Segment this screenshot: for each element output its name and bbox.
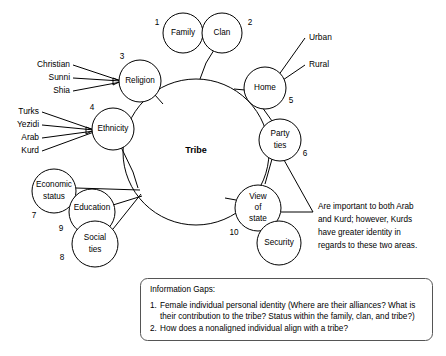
link-religion-hub bbox=[155, 95, 163, 104]
node-label-economic-status-line1: Economic bbox=[36, 180, 72, 189]
node-number-social-ties: 8 bbox=[60, 253, 65, 262]
leaf-label-rural: Rural bbox=[309, 59, 329, 69]
node-number-clan: 2 bbox=[248, 18, 253, 27]
home-branch-labels: Urban Rural bbox=[309, 32, 332, 69]
node-number-religion: 3 bbox=[120, 52, 125, 61]
node-home[interactable]: Home 5 bbox=[244, 67, 294, 109]
node-number-view-of-state: 10 bbox=[229, 228, 239, 237]
leaf-label-christian: Christian bbox=[37, 59, 70, 69]
diagram-canvas: Tribe Family 1 Clan 2 Religion 3 Ethnici… bbox=[0, 0, 446, 356]
node-label-family: Family bbox=[171, 28, 196, 37]
node-party-ties[interactable]: Party ties 6 bbox=[259, 119, 308, 161]
node-social-ties[interactable]: Social ties 8 bbox=[60, 221, 118, 267]
link-shia-religion bbox=[73, 82, 121, 91]
node-clan[interactable]: Clan 2 bbox=[202, 13, 253, 53]
leaf-label-turks: Turks bbox=[18, 106, 39, 116]
annotation-line-3: have greater identity in bbox=[318, 228, 401, 237]
node-label-social-ties-line2: ties bbox=[89, 245, 102, 254]
info-gap-2-number: 2. bbox=[150, 324, 157, 333]
node-religion[interactable]: Religion 3 bbox=[119, 52, 161, 102]
node-number-ethnicity: 4 bbox=[90, 103, 95, 112]
information-gaps-box: Information Gaps: 1. Female individual p… bbox=[141, 279, 433, 341]
node-label-education: Education bbox=[74, 203, 111, 212]
node-label-security: Security bbox=[264, 238, 294, 247]
node-circle-social-ties[interactable] bbox=[72, 221, 118, 267]
node-security[interactable]: Security bbox=[257, 221, 301, 265]
node-label-party-ties-line1: Party bbox=[270, 129, 290, 138]
leaf-label-kurd: Kurd bbox=[21, 145, 39, 155]
node-label-home: Home bbox=[254, 83, 276, 92]
annotation-block: Are important to both Arab and Kurd; how… bbox=[318, 202, 417, 250]
node-ethnicity[interactable]: Ethnicity 4 bbox=[90, 103, 134, 150]
node-label-view-of-state-line2: of bbox=[255, 203, 263, 212]
link-clan-hub bbox=[200, 50, 214, 79]
religion-branch-labels: Christian Sunni Shia bbox=[37, 59, 70, 95]
node-number-party-ties: 6 bbox=[303, 149, 308, 158]
node-label-religion: Religion bbox=[125, 76, 155, 85]
link-viewstate-hub bbox=[225, 198, 236, 200]
node-number-family: 1 bbox=[155, 18, 160, 27]
annotation-line-4: regards to these two areas. bbox=[318, 241, 417, 250]
leaf-label-urban: Urban bbox=[309, 32, 332, 42]
ethnicity-branch-labels: Turks Yezidi Arab Kurd bbox=[17, 106, 39, 155]
link-home-hub bbox=[234, 89, 245, 90]
link-education-hub bbox=[113, 196, 142, 205]
node-label-party-ties-line2: ties bbox=[274, 141, 287, 150]
link-urban-home bbox=[278, 38, 305, 76]
hub-label-tribe: Tribe bbox=[185, 145, 207, 155]
node-label-economic-status-line2: status bbox=[43, 192, 65, 201]
info-gap-1-line-2: their contribution to the tribe? Status … bbox=[160, 312, 415, 321]
node-number-home: 5 bbox=[289, 96, 294, 105]
link-social-hub bbox=[113, 194, 141, 229]
leaf-label-sunni: Sunni bbox=[49, 72, 71, 82]
info-gap-2-line-1: How does a nonaligned individual align w… bbox=[160, 324, 348, 333]
info-gap-1-line-1: Female individual personal identity (Whe… bbox=[160, 301, 415, 310]
node-label-social-ties-line1: Social bbox=[84, 233, 106, 242]
leaf-label-shia: Shia bbox=[53, 85, 70, 95]
link-party-annotation bbox=[284, 160, 313, 212]
node-number-economic-status: 7 bbox=[32, 211, 37, 220]
annotation-line-2: and Kurd; however, Kurds bbox=[318, 215, 412, 224]
leaf-label-arab: Arab bbox=[21, 132, 39, 142]
annotation-line-1: Are important to both Arab bbox=[318, 202, 414, 211]
info-gaps-title: Information Gaps: bbox=[150, 285, 215, 294]
tribe-identity-diagram: Tribe Family 1 Clan 2 Religion 3 Ethnici… bbox=[0, 0, 446, 356]
node-label-ethnicity: Ethnicity bbox=[98, 124, 130, 133]
node-label-view-of-state-line1: View bbox=[249, 192, 267, 201]
info-gap-1-number: 1. bbox=[150, 301, 157, 310]
leaf-label-yezidi: Yezidi bbox=[17, 119, 39, 129]
node-family[interactable]: Family 1 bbox=[155, 13, 203, 53]
node-label-view-of-state-line3: state bbox=[249, 214, 267, 223]
node-number-education: 9 bbox=[59, 224, 64, 233]
node-circle-party-ties[interactable] bbox=[259, 119, 301, 161]
node-label-clan: Clan bbox=[214, 28, 231, 37]
